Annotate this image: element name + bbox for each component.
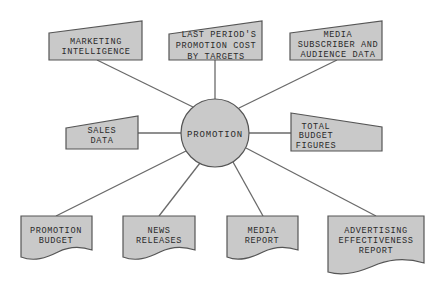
label-line: EFFECTIVENESS — [339, 236, 414, 246]
edge-marketing-intelligence — [97, 60, 193, 107]
output-media-report: MEDIA REPORT — [227, 216, 298, 259]
label-line: INTELLIGENCE — [61, 47, 130, 57]
label-line: REPORT — [245, 236, 280, 246]
input-sales-data: SALES DATA — [66, 116, 138, 149]
hub-promotion: PROMOTION — [181, 99, 249, 167]
label-line: AUDIENCE DATA — [301, 50, 376, 60]
label-line: REPORT — [359, 246, 394, 256]
label-line: BUDGET — [39, 236, 74, 246]
edge-media-report — [233, 162, 263, 216]
label-line: FIGURES — [296, 141, 336, 151]
promotion-diagram: MARKETING INTELLIGENCE LAST PERIOD'S PRO… — [0, 0, 441, 293]
label-line: PROMOTION COST — [176, 41, 257, 51]
hub-label: PROMOTION — [187, 130, 243, 140]
label-line: DATA — [90, 136, 113, 146]
label-line: RELEASES — [136, 236, 182, 246]
input-total-budget: TOTAL BUDGET FIGURES — [291, 113, 382, 151]
input-media-subscriber: MEDIA SUBSCRIBER AND AUDIENCE DATA — [290, 21, 382, 60]
label-line: SALES — [88, 126, 117, 136]
edge-media-subscriber — [239, 60, 337, 108]
edge-news-releases — [159, 163, 200, 216]
label-line: LAST PERIOD'S — [182, 30, 257, 40]
label-line: BY TARGETS — [187, 52, 245, 62]
input-marketing-intelligence: MARKETING INTELLIGENCE — [49, 21, 142, 60]
label-line: BUDGET — [299, 131, 334, 141]
input-last-period-cost: LAST PERIOD'S PROMOTION COST BY TARGETS — [169, 21, 262, 62]
output-promotion-budget: PROMOTION BUDGET — [21, 216, 92, 259]
output-news-releases: NEWS RELEASES — [123, 216, 195, 259]
label-line: PROMOTION — [30, 226, 82, 236]
label-line: MARKETING — [70, 37, 122, 47]
output-advertising-effectiveness: ADVERTISING EFFECTIVENESS REPORT — [328, 216, 424, 274]
label-line: NEWS — [147, 226, 170, 236]
label-line: SUBSCRIBER AND — [298, 40, 379, 50]
label-line: MEDIA — [324, 30, 353, 40]
label-line: ADVERTISING — [344, 226, 407, 236]
label-line: MEDIA — [248, 226, 277, 236]
edge-advertising-effectiveness — [246, 148, 376, 216]
